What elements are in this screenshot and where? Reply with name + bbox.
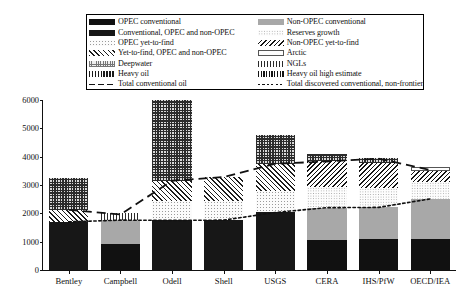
legend-pattern-swatch <box>89 61 115 67</box>
legend-item-label: Yet-to-find, OPEC and non-OPEC <box>118 49 227 57</box>
x-axis-tick-mark <box>430 270 431 274</box>
legend-item: NGLs <box>258 59 423 69</box>
legend-item: Total conventional oil <box>89 79 252 89</box>
y-axis-tick-mark <box>40 270 44 271</box>
legend-item: Deepwater <box>89 59 252 69</box>
legend-item-label: NGLs <box>287 60 306 68</box>
legend-pattern-swatch <box>89 19 115 25</box>
legend-item-label: Arctic <box>287 49 307 57</box>
trend-line <box>69 199 430 222</box>
x-axis-tick-label: Shell <box>215 276 233 286</box>
legend-item-label: Deepwater <box>118 60 152 68</box>
legend-pattern-swatch <box>89 30 115 36</box>
x-axis-tick-mark <box>275 270 276 274</box>
legend-column-left: OPEC conventionalConventional, OPEC and … <box>87 15 252 89</box>
x-axis-tick-mark <box>379 270 380 274</box>
legend-item-label: Heavy oil <box>118 70 149 78</box>
legend-item-label: OPEC conventional <box>118 18 181 26</box>
legend-item: Non-OPEC yet-to-find <box>258 38 423 48</box>
x-axis-tick-mark <box>327 270 328 274</box>
legend-line-swatch <box>89 82 115 88</box>
x-axis-tick-label: CERA <box>315 276 338 286</box>
legend-item-label: OPEC yet-to-find <box>118 39 174 47</box>
legend-pattern-swatch <box>258 30 284 36</box>
legend-item: OPEC yet-to-find <box>89 38 252 48</box>
x-axis-tick-label: OECD/IEA <box>410 276 450 286</box>
legend-item: Non-OPEC conventional <box>258 17 423 27</box>
figure: OPEC conventionalConventional, OPEC and … <box>0 0 463 305</box>
legend-pattern-swatch <box>258 19 284 25</box>
legend-item-label: Total discovered conventional, non-front… <box>287 80 423 88</box>
x-axis-tick-label: Odell <box>163 276 182 286</box>
legend-item: Total discovered conventional, non-front… <box>258 79 423 89</box>
legend-item: Heavy oil high estimate <box>258 69 423 79</box>
x-axis-tick-label: Campbell <box>104 276 137 286</box>
legend-pattern-swatch <box>258 50 284 56</box>
legend-item: Heavy oil <box>89 69 252 79</box>
legend-item-label: Reserves growth <box>287 29 340 37</box>
legend-line-swatch <box>258 82 284 88</box>
legend-item: Reserves growth <box>258 27 423 37</box>
trend-lines-overlay <box>43 100 456 270</box>
legend-pattern-swatch <box>258 40 284 46</box>
legend-column-right: Non-OPEC conventionalReserves growthNon-… <box>252 15 423 89</box>
legend-item: OPEC conventional <box>89 17 252 27</box>
legend-item-label: Total conventional oil <box>118 80 187 88</box>
legend-pattern-swatch <box>89 71 115 77</box>
x-axis-tick-label: IHS/PfW <box>363 276 395 286</box>
chart-legend: OPEC conventionalConventional, OPEC and … <box>86 14 424 90</box>
x-axis-tick-mark <box>69 270 70 274</box>
x-axis-tick-label: USGS <box>264 276 286 286</box>
legend-pattern-swatch <box>258 61 284 67</box>
trend-line <box>69 159 430 215</box>
legend-item-label: Non-OPEC conventional <box>287 18 366 26</box>
x-axis-tick-mark <box>172 270 173 274</box>
legend-pattern-swatch <box>89 40 115 46</box>
legend-item: Conventional, OPEC and non-OPEC <box>89 27 252 37</box>
legend-item-label: Heavy oil high estimate <box>287 70 362 78</box>
legend-pattern-swatch <box>89 50 115 56</box>
x-axis-tick-label: Bentley <box>55 276 82 286</box>
legend-item: Arctic <box>258 48 423 58</box>
legend-pattern-swatch <box>258 71 284 77</box>
x-axis-tick-mark <box>224 270 225 274</box>
legend-item-label: Non-OPEC yet-to-find <box>287 39 359 47</box>
plot-area: 0100020003000400050006000 BentleyCampbel… <box>42 100 456 271</box>
x-axis-tick-mark <box>120 270 121 274</box>
legend-item-label: Conventional, OPEC and non-OPEC <box>118 29 235 37</box>
legend-item: Yet-to-find, OPEC and non-OPEC <box>89 48 252 58</box>
